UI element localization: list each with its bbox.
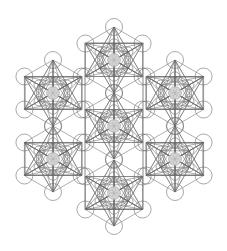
metatron-cube-diagram: Metatron's Cube cluster [0,0,227,251]
geometry-figure [0,0,227,251]
unit-lower-left [16,118,90,201]
unit-upper-left [16,52,90,135]
unit-center [77,85,151,168]
unit-lower-right [138,118,212,201]
unit-bottom [77,152,151,235]
unit-upper-right [138,52,212,135]
unit-top [77,19,151,102]
